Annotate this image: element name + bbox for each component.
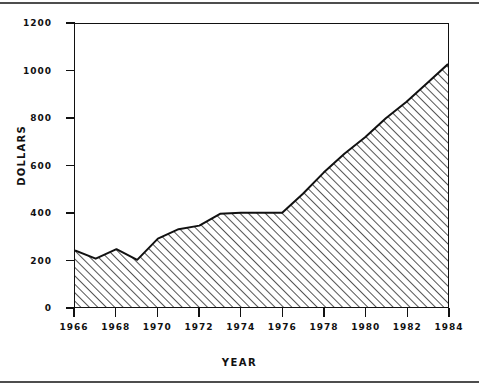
x-tick-mark: [282, 308, 284, 317]
x-tick-mark: [198, 308, 200, 317]
area-series-svg: [75, 24, 448, 307]
y-tick-label: 200: [30, 255, 52, 267]
x-axis-title: YEAR: [0, 357, 479, 368]
x-tick-mark: [240, 308, 242, 317]
x-tick-mark: [407, 308, 409, 317]
chart-page: DOLLARS 020040060080010001200 1966196819…: [0, 0, 479, 387]
y-tick-label: 600: [30, 160, 52, 172]
x-tick-mark: [73, 308, 75, 317]
x-tick-mark: [157, 308, 159, 317]
y-tick-label: 0: [45, 302, 52, 314]
plot-area: [74, 23, 449, 308]
x-tick-label: 1984: [424, 322, 474, 332]
y-tick-label: 1000: [23, 65, 52, 77]
x-tick-mark: [323, 308, 325, 317]
x-tick-mark: [448, 308, 450, 317]
x-tick-mark: [365, 308, 367, 317]
y-tick-label: 1200: [23, 17, 52, 29]
y-tick-label: 400: [30, 207, 52, 219]
y-tick-label: 800: [30, 112, 52, 124]
x-tick-mark: [115, 308, 117, 317]
